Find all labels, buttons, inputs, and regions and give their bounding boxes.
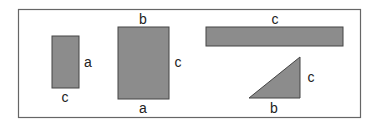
- label-b: b: [270, 100, 278, 116]
- label-a: a: [139, 100, 147, 116]
- label-c: c: [308, 69, 315, 85]
- shapes-diagram: a c b c a c c b: [0, 0, 375, 123]
- label-b: b: [139, 11, 147, 27]
- label-a: a: [84, 54, 92, 70]
- label-c: c: [272, 11, 279, 27]
- label-c: c: [175, 54, 182, 70]
- label-c: c: [62, 89, 69, 105]
